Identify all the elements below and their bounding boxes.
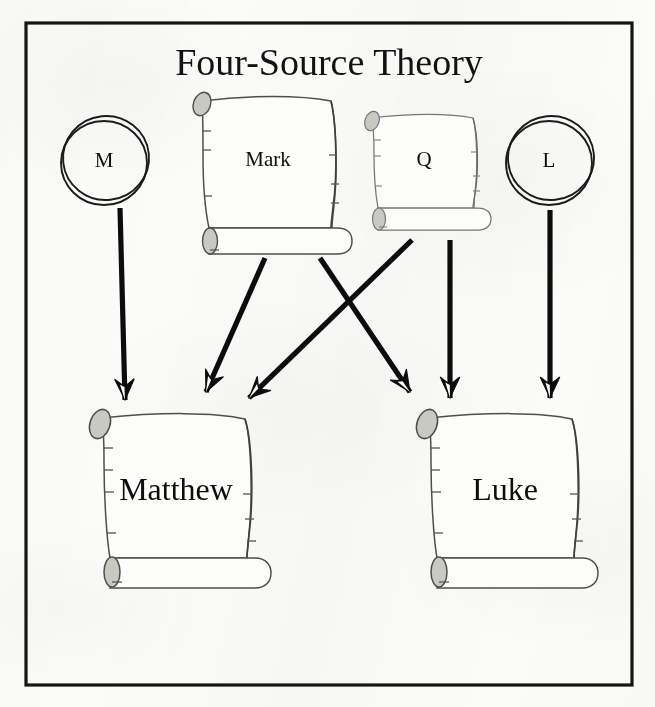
matthew-label: Matthew	[119, 471, 233, 507]
node-m[interactable]: M	[59, 112, 153, 205]
q-label: Q	[416, 147, 431, 171]
edge-mark-to-luke[interactable]	[320, 258, 410, 392]
matthew-scroll-bottom-roll	[110, 558, 271, 588]
node-l[interactable]: L	[504, 112, 598, 205]
node-q[interactable]: Q	[362, 109, 491, 230]
l-label: L	[543, 148, 556, 172]
edge-q-to-matthew[interactable]	[249, 240, 412, 398]
luke-label: Luke	[472, 471, 538, 507]
edge-m-to-matthew[interactable]	[120, 208, 125, 400]
node-luke[interactable]: Luke	[413, 407, 598, 588]
four-source-theory-diagram: Four-Source Theory M	[0, 0, 655, 707]
node-matthew[interactable]: Matthew	[86, 407, 271, 588]
figure-canvas: Four-Source Theory M	[0, 0, 655, 707]
page-title: Four-Source Theory	[175, 41, 483, 83]
edge-mark-to-matthew[interactable]	[206, 258, 265, 392]
luke-scroll-bottom-roll	[437, 558, 598, 588]
m-label: M	[95, 148, 114, 172]
node-mark[interactable]: Mark	[190, 90, 352, 254]
mark-label: Mark	[245, 147, 291, 171]
mark-scroll-bottom-roll	[209, 228, 352, 254]
q-scroll-bottom-roll	[378, 208, 491, 230]
